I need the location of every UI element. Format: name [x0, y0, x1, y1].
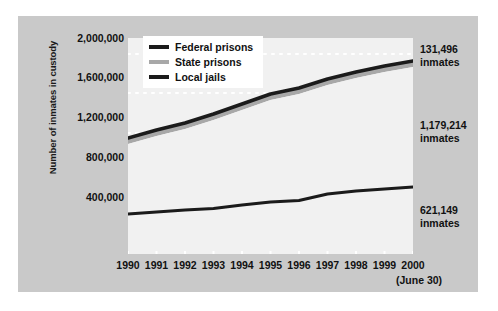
x-tick-label-2000: 2000 [401, 259, 424, 271]
federal-prisons-annotation-value: 131,496 [420, 43, 460, 56]
x-tick-label-1997: 1997 [316, 259, 339, 271]
state-prisons-annotation-value: 1,179,214 [420, 119, 467, 132]
legend-swatch-state-prisons-icon [149, 60, 169, 64]
x-tick-label-1990: 1990 [116, 259, 139, 271]
x-axis-tick-labels: 1990 1991 1992 1993 1994 1995 1996 1997 … [114, 259, 434, 275]
x-tick-label-1993: 1993 [202, 259, 225, 271]
state-prisons-annotation-unit: inmates [420, 132, 467, 145]
y-tick-label-1600000: 1,600,000 [52, 71, 124, 83]
x-tick-label-1998: 1998 [344, 259, 367, 271]
x-tick-label-1994: 1994 [230, 259, 253, 271]
local-jails-annotation-unit: inmates [420, 217, 460, 230]
legend-item-federal-prisons: Federal prisons [149, 40, 255, 54]
y-tick-label-2000000: 2,000,000 [52, 32, 124, 44]
chart-figure: Number of inmates in custody 2,000,000 1… [0, 0, 498, 311]
legend-swatch-federal-prisons-icon [149, 45, 169, 49]
y-tick-label-1200000: 1,200,000 [52, 111, 124, 123]
chart-legend: Federal prisons State prisons Local jail… [143, 36, 263, 88]
federal-prisons-annotation: 131,496 inmates [420, 43, 460, 68]
state-prisons-annotation: 1,179,214 inmates [420, 119, 467, 144]
x-axis-note: (June 30) [396, 274, 442, 286]
chart-card: Number of inmates in custody 2,000,000 1… [18, 16, 478, 292]
y-tick-label-400000: 400,000 [52, 191, 124, 203]
y-tick-label-800000: 800,000 [52, 151, 124, 163]
x-tick-label-1995: 1995 [259, 259, 282, 271]
legend-label-state-prisons: State prisons [175, 56, 242, 68]
x-tick-label-1999: 1999 [373, 259, 396, 271]
legend-swatch-local-jails-icon [149, 75, 169, 79]
legend-item-state-prisons: State prisons [149, 55, 255, 69]
y-axis-tick-labels: 2,000,000 1,600,000 1,200,000 800,000 40… [36, 16, 124, 292]
x-tick-label-1991: 1991 [145, 259, 168, 271]
local-jails-annotation: 621,149 inmates [420, 204, 460, 229]
x-tick-label-1992: 1992 [173, 259, 196, 271]
local-jails-annotation-value: 621,149 [420, 204, 460, 217]
legend-item-local-jails: Local jails [149, 70, 255, 84]
legend-label-federal-prisons: Federal prisons [175, 41, 253, 53]
federal-prisons-annotation-unit: inmates [420, 56, 460, 69]
legend-label-local-jails: Local jails [175, 71, 226, 83]
x-tick-label-1996: 1996 [287, 259, 310, 271]
